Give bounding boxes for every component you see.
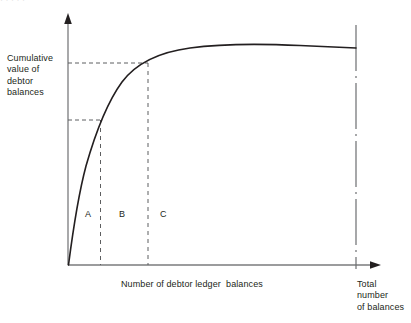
cumulative-curve [69, 44, 357, 265]
chart-canvas [0, 0, 411, 323]
region-label-a: A [85, 209, 91, 219]
right-axis-label: Total number of balances [357, 279, 411, 313]
y-axis [64, 13, 72, 265]
y-axis-label: Cumulative value of debtor balances [7, 53, 69, 98]
region-label-b: B [119, 209, 125, 219]
pareto-chart: · · · · · Cumulative value of debtor bal… [0, 0, 411, 323]
x-axis-label: Number of debtor ledger balances [121, 279, 263, 290]
region-label-c: C [160, 209, 167, 219]
x-axis [68, 261, 381, 269]
